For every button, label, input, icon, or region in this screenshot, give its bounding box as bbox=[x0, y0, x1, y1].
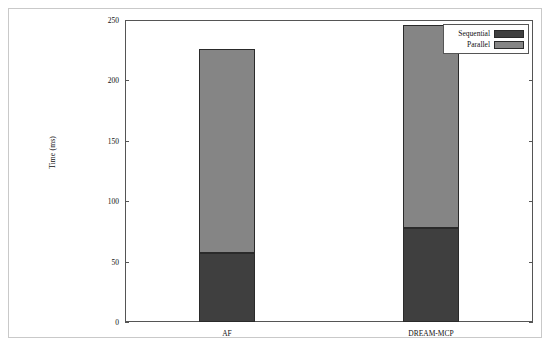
y-tick-label: 100 bbox=[85, 197, 119, 206]
legend-item[interactable]: Parallel bbox=[448, 39, 524, 50]
bar-segment[interactable] bbox=[403, 25, 459, 228]
y-tick-label: 50 bbox=[85, 257, 119, 266]
bar-segment[interactable] bbox=[403, 228, 459, 322]
legend-item[interactable]: Sequential bbox=[448, 28, 524, 39]
x-tick-label: DREAM-MCP bbox=[408, 329, 453, 338]
y-tick-label: 250 bbox=[85, 16, 119, 25]
bar-segment[interactable] bbox=[199, 49, 255, 253]
bar-group[interactable] bbox=[199, 20, 255, 322]
legend-label: Sequential bbox=[458, 29, 490, 38]
legend-swatch bbox=[494, 30, 524, 38]
figure-container: Time (ms) 050100150200250 AFDREAM-MCP Se… bbox=[0, 0, 550, 346]
y-tick-mark bbox=[125, 262, 129, 263]
x-tick-label: AF bbox=[222, 329, 232, 338]
y-tick-mark bbox=[529, 322, 533, 323]
bar-group[interactable] bbox=[403, 20, 459, 322]
legend-label: Parallel bbox=[467, 40, 490, 49]
bar-segment[interactable] bbox=[199, 253, 255, 322]
y-tick-label: 0 bbox=[85, 318, 119, 327]
y-tick-mark bbox=[529, 201, 533, 202]
y-tick-label: 200 bbox=[85, 76, 119, 85]
plot-area: 050100150200250 bbox=[125, 20, 533, 322]
y-tick-mark bbox=[125, 322, 129, 323]
y-tick-mark bbox=[125, 20, 129, 21]
y-tick-mark bbox=[529, 262, 533, 263]
y-tick-mark bbox=[529, 141, 533, 142]
chart-legend: SequentialParallel bbox=[443, 24, 529, 54]
y-tick-label: 150 bbox=[85, 136, 119, 145]
y-tick-mark bbox=[529, 20, 533, 21]
legend-swatch bbox=[494, 41, 524, 49]
y-axis-label: Time (ms) bbox=[48, 93, 57, 213]
y-tick-mark bbox=[125, 141, 129, 142]
y-tick-mark bbox=[125, 80, 129, 81]
y-tick-mark bbox=[125, 201, 129, 202]
y-tick-mark bbox=[529, 80, 533, 81]
